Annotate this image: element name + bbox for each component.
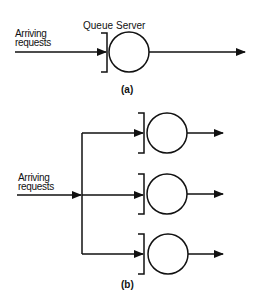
multi-server-system [17, 113, 223, 274]
server-circle-3 [148, 234, 188, 274]
queue-bracket-2 [138, 174, 144, 214]
queueing-diagram: Arriving requests Queue Server (a) Arriv… [0, 0, 254, 306]
server-label: Server [116, 21, 145, 31]
caption-a: (a) [121, 84, 133, 95]
queue-label: Queue [83, 21, 113, 31]
arriving-requests-label-b: Arriving requests [18, 173, 54, 191]
arriving-requests-label-a: Arriving requests [15, 29, 51, 47]
server-circle [109, 32, 149, 72]
server-circle-1 [147, 113, 187, 153]
caption-b: (b) [121, 279, 134, 290]
server-circle-2 [147, 174, 187, 214]
